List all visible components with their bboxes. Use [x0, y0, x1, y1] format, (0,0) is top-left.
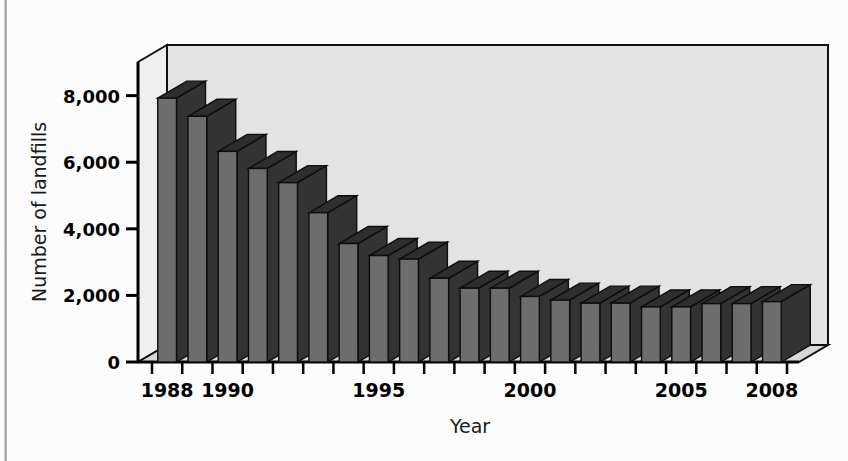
bar-front-face — [279, 183, 298, 362]
x-tick-label: 1990 — [201, 379, 254, 401]
bar-front-face — [309, 213, 328, 362]
x-axis-title: Year — [449, 415, 490, 437]
bar-front-face — [702, 304, 721, 362]
x-tick-label: 1988 — [141, 379, 194, 401]
y-tick-label: 0 — [107, 352, 120, 373]
bar-front-face — [339, 244, 358, 362]
y-tick-label: 6,000 — [63, 152, 120, 173]
bar-front-face — [188, 116, 207, 362]
chart-svg: 02,0004,0006,0008,000 198819901995200020… — [0, 0, 848, 461]
bar-front-face — [430, 278, 449, 362]
x-axis-tick-labels: 198819901995200020052008 — [141, 379, 799, 401]
y-tick-label: 2,000 — [63, 285, 120, 306]
bar-front-face — [218, 151, 237, 362]
x-tick-label: 2008 — [745, 379, 798, 401]
bar-front-face — [732, 304, 751, 362]
bar-front-face — [460, 288, 479, 362]
bar-front-face — [763, 302, 782, 362]
bar-front-face — [400, 259, 419, 362]
y-axis-ticks: 02,0004,0006,0008,000 — [63, 86, 138, 373]
x-axis-ticks — [152, 362, 787, 374]
bar-chart-figure: 02,0004,0006,0008,000 198819901995200020… — [0, 0, 848, 461]
x-tick-label: 2000 — [504, 379, 557, 401]
bar-front-face — [369, 256, 388, 362]
bar-front-face — [642, 307, 661, 362]
y-axis-title: Number of landfills — [28, 122, 50, 302]
y-tick-label: 4,000 — [63, 219, 120, 240]
bar-front-face — [611, 303, 630, 362]
bar-front-face — [248, 168, 267, 362]
bar-front-face — [672, 307, 691, 362]
bar-front-face — [490, 288, 509, 362]
y-tick-label: 8,000 — [63, 86, 120, 107]
x-tick-label: 1995 — [352, 379, 405, 401]
bar-front-face — [521, 297, 540, 362]
bar-front-face — [158, 98, 177, 362]
figure-page: 02,0004,0006,0008,000 198819901995200020… — [0, 0, 848, 461]
bar-front-face — [551, 300, 570, 362]
bar-front-face — [581, 303, 600, 362]
x-tick-label: 2005 — [655, 379, 708, 401]
